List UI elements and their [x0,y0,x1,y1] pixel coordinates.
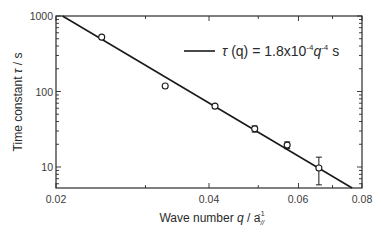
legend-label: τ (q) = 1.8x10-4q-4 s [222,43,339,59]
axis-ticks [56,16,362,188]
x-axis-title: Wave number q / a//-1 [159,210,265,226]
data-point [284,142,290,148]
y-tick-100: 100 [35,86,53,98]
y-tick-1000: 1000 [30,10,54,22]
x-tick-0.04: 0.04 [199,193,220,205]
data-point [252,126,258,132]
fit-line [63,16,353,188]
chart-canvas: 1000 100 10 0.02 0.04 0.06 0.08 Wave num… [0,0,381,241]
x-tick-0.08: 0.08 [352,193,373,205]
data-point [162,83,168,89]
data-point [212,103,218,109]
y-tick-10: 10 [41,161,53,173]
plot-frame [56,16,362,188]
data-point [99,34,105,40]
x-tick-0.02: 0.02 [46,193,67,205]
legend: τ (q) = 1.8x10-4q-4 s [184,43,339,59]
y-axis-title: Time constant τ / s [11,53,25,152]
data-point [316,165,322,171]
x-tick-0.06: 0.06 [288,193,309,205]
